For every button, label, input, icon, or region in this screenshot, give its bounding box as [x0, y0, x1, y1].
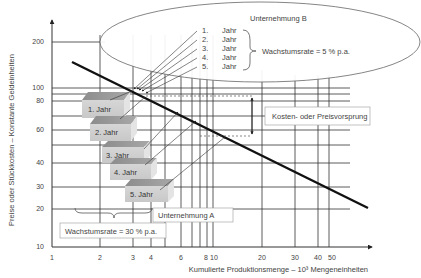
company-b-year-label-2: Jahr [222, 35, 237, 44]
y-tick-20: 20 [36, 205, 44, 212]
advantage-label: Kosten- oder Preisvorsprung [272, 112, 367, 121]
x-tick-6: 6 [179, 254, 183, 261]
y-tick-100: 100 [32, 84, 44, 91]
company-b-year-num-2: 2. [202, 35, 208, 44]
x-tick-3: 3 [131, 254, 135, 261]
y-axis-label: Preise oder Stückkosten – Konstante Geld… [7, 54, 16, 226]
company-b-year-label-1: Jahr [222, 26, 237, 35]
company-a-year-1-box: 1. Jahr [82, 92, 130, 118]
x-tick-50: 50 [328, 254, 336, 261]
company-a-year-boxes: 1. Jahr 2. Jahr 3. Jahr 4. Jahr [82, 92, 174, 202]
company-a-growth-box: Wachstumsrate = 30 % p.a. [60, 223, 166, 238]
company-b-year-label-5: Jahr [222, 62, 237, 71]
x-tick-10: 10 [210, 254, 218, 261]
x-tick-labels: 1 2 3 4 6 8 10 20 30 40 50 [50, 254, 336, 261]
x-tick-40: 40 [314, 254, 322, 261]
x-tick-2: 2 [98, 254, 102, 261]
advantage-label-box: Kosten- oder Preisvorsprung [265, 107, 370, 125]
company-b-year-label-3: Jahr [222, 44, 237, 53]
company-b-year-label-4: Jahr [222, 53, 237, 62]
company-a-year-5-box: 5. Jahr [125, 179, 174, 202]
x-tick-1: 1 [50, 254, 54, 261]
y-tick-80: 80 [36, 97, 44, 104]
company-a-year-2-label: 2. Jahr [95, 128, 118, 137]
company-b-year-num-4: 4. [202, 53, 208, 62]
y-tick-10: 10 [36, 243, 44, 250]
company-b-year-num-5: 5. [202, 62, 208, 71]
company-a-brace [75, 208, 152, 218]
company-a-year-4-label: 4. Jahr [114, 168, 137, 177]
company-a-title: Unternehmung A [158, 211, 214, 220]
y-tick-labels: 200 100 80 60 40 30 20 10 [32, 38, 44, 250]
company-a-year-2-box: 2. Jahr [90, 116, 137, 141]
experience-curve-diagram: 200 100 80 60 40 30 20 10 1 2 3 4 6 8 10… [0, 0, 421, 278]
company-a-year-1-label: 1. Jahr [88, 105, 111, 114]
x-tick-20: 20 [258, 254, 266, 261]
y-tick-30: 30 [36, 183, 44, 190]
company-b-title: Unternehmung B [250, 14, 307, 23]
company-b-year-num-1: 1. [202, 26, 208, 35]
x-axis-label: Kumulierte Produktionsmenge – 10³ Mengen… [189, 265, 368, 274]
company-a-title-box: Unternehmung A [153, 208, 233, 222]
x-tick-4: 4 [149, 254, 153, 261]
x-tick-8: 8 [204, 254, 208, 261]
company-b-growth-rate: Wachstumsrate = 5 % p.a. [262, 47, 350, 56]
y-tick-200: 200 [32, 38, 44, 45]
company-b-year-num-3: 3. [202, 44, 208, 53]
x-tick-30: 30 [291, 254, 299, 261]
y-tick-60: 60 [36, 126, 44, 133]
y-tick-40: 40 [36, 159, 44, 166]
company-a-year-4-box: 4. Jahr [110, 158, 157, 180]
company-a-growth-rate: Wachstumsrate = 30 % p.a. [65, 227, 157, 236]
diagram-canvas: 200 100 80 60 40 30 20 10 1 2 3 4 6 8 10… [0, 0, 421, 278]
company-a-year-5-label: 5. Jahr [130, 190, 153, 199]
